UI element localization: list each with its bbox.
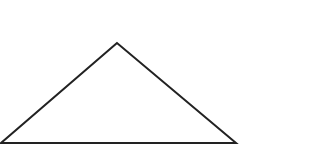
triangle-diagram [0, 0, 318, 168]
diagram-canvas [0, 0, 318, 168]
triangle-shape [1, 43, 236, 143]
